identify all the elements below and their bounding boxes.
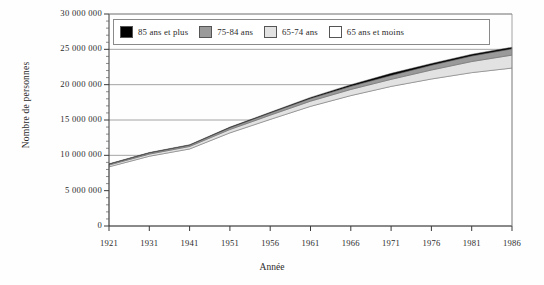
- x-tick-label: 1956: [250, 238, 290, 248]
- x-tick-label: 1976: [411, 238, 451, 248]
- x-tick-label: 1966: [331, 238, 371, 248]
- legend-item-label: 65 ans et moins: [347, 27, 404, 37]
- legend-item: 65-74 ans: [264, 26, 318, 38]
- legend-item-label: 85 ans et plus: [138, 27, 188, 37]
- chart-legend: 85 ans et plus75-84 ans65-74 ans65 ans e…: [113, 19, 490, 45]
- legend-item-label: 75-84 ans: [217, 27, 253, 37]
- x-axis-title: Année: [0, 262, 544, 272]
- legend-swatch-icon: [329, 26, 342, 38]
- y-tick-label: 5 000 000: [10, 185, 102, 195]
- x-tick-label: 1931: [129, 238, 169, 248]
- x-tick-label: 1971: [371, 238, 411, 248]
- legend-swatch-icon: [120, 26, 133, 38]
- legend-item-label: 65-74 ans: [282, 27, 318, 37]
- x-tick-label: 1961: [291, 238, 331, 248]
- legend-item: 85 ans et plus: [120, 26, 188, 38]
- x-tick-label: 1986: [492, 238, 532, 248]
- legend-swatch-icon: [264, 26, 277, 38]
- x-tick-label: 1921: [89, 238, 129, 248]
- legend-item: 65 ans et moins: [329, 26, 404, 38]
- x-tick-label: 1951: [210, 238, 250, 248]
- chart-figure: 05 000 00010 000 00015 000 00020 000 000…: [0, 0, 544, 285]
- y-tick-label: 0: [10, 220, 102, 230]
- legend-item: 75-84 ans: [199, 26, 253, 38]
- series-areas: [109, 47, 512, 226]
- y-axis-title: Nombre de personnes: [21, 35, 31, 175]
- x-tick-label: 1941: [170, 238, 210, 248]
- x-tick-label: 1981: [452, 238, 492, 248]
- y-tick-label: 30 000 000: [10, 8, 102, 18]
- legend-swatch-icon: [199, 26, 212, 38]
